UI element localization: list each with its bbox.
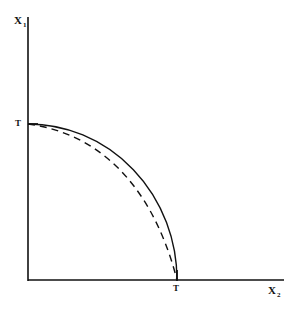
x-axis-label: X2 [268,284,280,296]
x-tick-label: T [173,283,179,293]
chart: X1 X2 T T [0,0,302,310]
y-tick-label: T [15,118,21,128]
solid-curve [28,124,177,280]
chart-plot [0,0,302,310]
dashed-curve [28,124,177,280]
y-axis-label: X1 [14,14,26,26]
